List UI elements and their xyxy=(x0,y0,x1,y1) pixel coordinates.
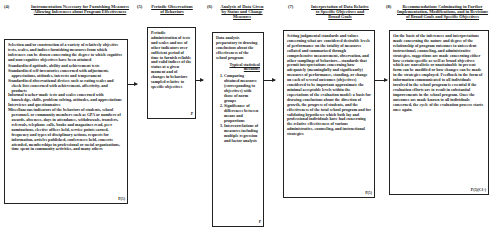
step-5-box: Periodic administration of tests and sca… xyxy=(147,27,196,119)
step-6-methods-list: Comparing obtained measures (correspondi… xyxy=(216,74,260,144)
arrow-5-to-6 xyxy=(196,80,203,81)
step-8-text: On the basis of the inferences and inter… xyxy=(393,34,485,113)
step-8-number: (8) xyxy=(386,4,391,9)
step-8-box: On the basis of the inferences and inter… xyxy=(389,30,489,195)
step-6-box: Data analysis preparatory to drawing con… xyxy=(212,32,264,227)
evaluation-process-diagram: (4) Instrumentation Necessary for Furnis… xyxy=(0,0,492,228)
step-4-item: Standardized observational devices such … xyxy=(8,79,124,94)
step-4-intro: Selection and/or construction of a varie… xyxy=(8,43,124,63)
step-4-title: Instrumentation Necessary for Furnishing… xyxy=(28,4,132,14)
step-7-box: Setting judgmental standards and values … xyxy=(283,30,375,198)
arrow-6-to-7 xyxy=(264,80,275,81)
step-5-title: Periodic Observations of Behaviors xyxy=(150,4,194,14)
step-4-item: Miscellaneous indicators of the behavior… xyxy=(8,108,124,152)
step-6-code: P xyxy=(259,220,261,225)
step-6-text: Data analysis preparatory to drawing con… xyxy=(216,36,260,61)
step-7-text: Setting judgmental standards and values … xyxy=(287,34,371,137)
step-4-number: (4) xyxy=(4,4,9,9)
step-5-text: Periodic administration of tests and sca… xyxy=(151,31,192,90)
arrow-4-to-5 xyxy=(128,84,137,85)
step-6-subheading: Typical statistical methods: xyxy=(216,63,260,73)
step-6-method: Intercorrelations of measures including … xyxy=(224,124,260,144)
step-5-number: (5) xyxy=(137,4,142,9)
arrow-7-to-8 xyxy=(375,80,387,81)
step-4-box: Selection and/or construction of a varie… xyxy=(4,39,128,204)
step-7-code: P(5) xyxy=(365,191,372,196)
step-7-number: (7) xyxy=(288,4,293,9)
step-6-title: Analysis of Data Given by Status and Cha… xyxy=(218,4,266,19)
step-8-title: Recommendations Culminating in Further I… xyxy=(395,4,490,19)
step-7-title: Interpretation of Data Relative to Speci… xyxy=(310,4,370,19)
step-5-code: P xyxy=(191,112,193,117)
step-8-code: P(5)(C1-) xyxy=(471,188,486,193)
step-4-code: P(5) xyxy=(118,197,125,202)
step-6-number: (6) xyxy=(207,4,212,9)
step-6-method: Significance of differences between mean… xyxy=(224,104,260,124)
step-6-method: Comparing obtained measures (correspondi… xyxy=(224,74,260,103)
